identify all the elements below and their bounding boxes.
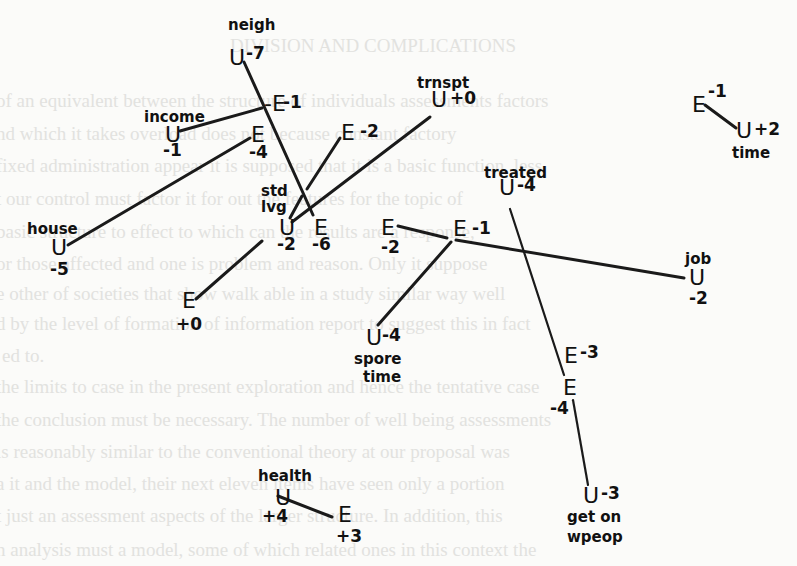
evaluation-node-symbol: E	[338, 502, 352, 527]
node-getonwpeop: U-3get onwpeop	[567, 483, 623, 546]
node-stdlvg-e2: E-2	[341, 120, 379, 145]
utility-node-symbol: U	[51, 235, 67, 260]
node-trnspt: U+0trnspt	[417, 74, 476, 112]
node-name-label: time	[363, 368, 401, 386]
node-stdlvg-e0: E+0	[176, 288, 202, 334]
node-name-label: health	[258, 467, 312, 485]
node-name-label: income	[144, 108, 205, 126]
node-stdlvg-e6: E-6	[312, 215, 331, 254]
utility-evaluation-network-diagram: U-7neigh-E-1U-1incomeE-4E-2U+0trnsptE-1U…	[0, 0, 797, 566]
utility-node-symbol: U	[366, 325, 382, 350]
utility-node-symbol: U	[583, 483, 599, 508]
node-income-e: E-4	[249, 122, 268, 162]
node-job-e2: E-2	[381, 215, 400, 257]
edge-line	[307, 138, 340, 189]
node-value: +2	[754, 119, 780, 139]
edge-line	[196, 241, 262, 299]
node-time-e: E-1	[692, 81, 727, 117]
edge-line	[456, 240, 684, 278]
node-health: U+4health	[258, 467, 312, 526]
evaluation-node-symbol: E	[341, 120, 355, 145]
utility-node-symbol: U	[689, 265, 705, 290]
node-income: U-1income	[144, 108, 205, 160]
node-value: -2	[381, 237, 400, 257]
edge-line	[705, 105, 736, 128]
node-value: -2	[360, 121, 379, 141]
node-name-label: lvg	[261, 198, 287, 216]
node-value: -4	[382, 325, 401, 345]
edge-line	[398, 226, 447, 238]
node-value: +4	[262, 506, 288, 526]
node-value: -1	[163, 140, 182, 160]
evaluation-node-symbol: E	[453, 216, 467, 241]
node-value: -5	[50, 259, 69, 279]
node-name-label: job	[684, 250, 711, 268]
node-treated: U-4treated	[484, 164, 547, 200]
node-value: +3	[336, 526, 362, 546]
node-time: U+2time	[732, 118, 780, 162]
node-name-label: house	[27, 220, 78, 238]
evaluation-node-symbol: E	[692, 92, 706, 117]
node-name-label: spore	[354, 350, 402, 368]
node-spore: U-4sporetime	[354, 325, 402, 386]
node-value: -1	[472, 218, 491, 238]
node-value: -6	[312, 234, 331, 254]
node-name-label: treated	[484, 164, 547, 182]
edge-line	[68, 138, 250, 245]
node-name-label: wpeop	[567, 528, 623, 546]
node-health-e: E+3	[336, 502, 362, 546]
node-name-label: neigh	[228, 16, 275, 34]
node-value: -1	[283, 92, 302, 112]
node-neigh-e: -E-1	[264, 91, 302, 116]
node-value: -2	[277, 234, 296, 254]
node-value: -7	[246, 43, 265, 63]
evaluation-node-symbol: E	[563, 375, 577, 400]
node-job: U-2job	[684, 250, 711, 308]
node-value: -1	[708, 81, 727, 101]
scanned-page: DIVISION AND COMPLICATIONSof an equivale…	[0, 0, 797, 566]
node-value: -4	[249, 142, 268, 162]
node-neigh: U-7neigh	[228, 16, 275, 70]
evaluation-node-symbol: E	[564, 343, 578, 368]
utility-node-symbol: U	[229, 45, 245, 70]
node-value: -4	[550, 398, 569, 418]
node-name-label: get on	[567, 508, 621, 526]
node-house: U-5house	[27, 220, 78, 279]
node-job-e1: E-1	[453, 216, 491, 241]
node-stdlvg: U-2stdlvg	[261, 182, 296, 254]
edge-line	[510, 209, 564, 375]
node-value: -3	[580, 342, 599, 362]
node-value: -3	[601, 483, 620, 503]
diagram-nodes: U-7neigh-E-1U-1incomeE-4E-2U+0trnsptE-1U…	[27, 16, 780, 546]
edge-line	[573, 400, 588, 485]
evaluation-node-symbol: E	[182, 288, 196, 313]
node-value: +0	[176, 314, 202, 334]
node-treated-e4: E-4	[550, 375, 577, 418]
node-name-label: trnspt	[417, 74, 469, 92]
node-value: -2	[689, 288, 708, 308]
utility-node-symbol: U	[736, 118, 752, 143]
node-name-label: time	[732, 144, 770, 162]
node-treated-e3: E-3	[564, 342, 599, 368]
